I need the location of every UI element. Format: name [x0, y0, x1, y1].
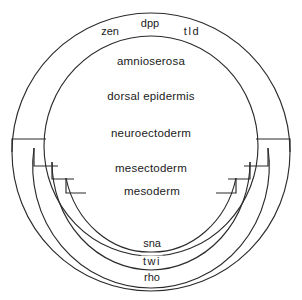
gene-label-tld: tld — [182, 26, 202, 37]
gene-label-rho: rho — [142, 272, 162, 283]
arc-ring-twi-right — [151, 162, 250, 270]
tissue-label-mesectoderm: mesectoderm — [113, 163, 189, 175]
gene-label-dpp: dpp — [139, 18, 161, 29]
tissue-label-amnioserosa: amnioserosa — [115, 56, 187, 68]
bracket-tick-outer-left — [12, 139, 46, 152]
bracket-tick-twi-right — [228, 162, 250, 179]
bracket-tick-mid-left — [34, 148, 58, 166]
bracket-tick-twi-left — [52, 162, 74, 179]
diagram-canvas: amnioserosa dorsal epidermis neuroectode… — [0, 0, 302, 300]
tissue-label-dorsal-epidermis: dorsal epidermis — [105, 91, 197, 103]
arc-ring-inner-embryo — [44, 36, 258, 256]
bracket-tick-mid-right — [244, 148, 268, 166]
gene-label-zen: zen — [99, 26, 121, 37]
arc-ring-twi-left — [52, 162, 151, 270]
tissue-label-mesoderm: mesoderm — [122, 186, 182, 198]
gene-label-sna: sna — [141, 238, 163, 249]
gene-label-twi: twi — [141, 256, 163, 267]
tissue-label-neuroectoderm: neuroectoderm — [109, 128, 193, 140]
bracket-tick-outer-right — [256, 139, 290, 152]
